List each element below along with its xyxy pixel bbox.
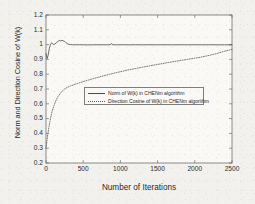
chart-legend: Norm of W(k) in CHENm algorithm Directio… [84,87,204,105]
legend-swatch-dotted-icon [88,101,105,102]
y-tick-label: 0.6 [27,101,43,108]
x-tick-label: 1500 [145,166,171,173]
legend-swatch-solid-icon [88,93,105,94]
y-tick-label: 0.9 [27,56,43,63]
y-tick-label: 0.3 [27,145,43,152]
y-tick-label: 1 [27,41,43,48]
y-tick-label: 1.2 [27,12,43,19]
legend-entry-norm: Norm of W(k) in CHENm algorithm [88,89,200,97]
x-axis-ticklabels: 05001000150020002500 [0,166,255,176]
x-tick-label: 1000 [107,166,133,173]
x-tick-label: 2000 [182,166,208,173]
x-axis-title: Number of Iterations [46,183,232,192]
x-tick-label: 0 [33,166,59,173]
figure-container: Norm and Direction Cosine of W(k) 0.20.3… [0,0,255,204]
y-tick-label: 0.8 [27,71,43,78]
y-axis-title: Norm and Direction Cosine of W(k) [13,8,22,158]
legend-label-direction-cosine: Direction Cosine of W(k) in CHENm algori… [108,98,209,104]
y-tick-label: 0.4 [27,130,43,137]
x-tick-label: 500 [70,166,96,173]
x-tick-label: 2500 [219,166,245,173]
y-tick-label: 0.7 [27,86,43,93]
legend-label-norm: Norm of W(k) in CHENm algorithm [108,90,185,96]
y-tick-label: 1.1 [27,27,43,34]
y-tick-label: 0.5 [27,115,43,122]
legend-entry-direction-cosine: Direction Cosine of W(k) in CHENm algori… [88,97,200,105]
